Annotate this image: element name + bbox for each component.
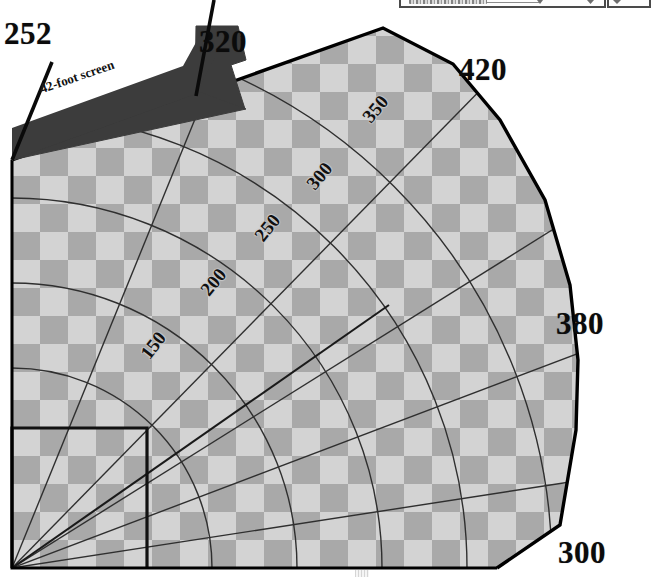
wall-distance-420: 420 xyxy=(459,52,507,88)
wall-distance-252: 252 xyxy=(4,16,52,52)
wall-distance-300: 300 xyxy=(558,535,606,571)
wall-distance-320: 320 xyxy=(199,24,247,60)
wall-distance-380: 380 xyxy=(556,306,604,342)
bottom-artifact xyxy=(355,570,369,577)
